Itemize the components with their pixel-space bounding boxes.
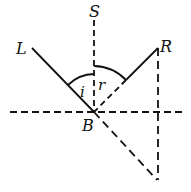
label-r: R [159, 37, 172, 56]
incident-extension [94, 112, 157, 180]
label-b: B [81, 116, 94, 135]
label-l: L [15, 39, 27, 58]
reflected-ray-solid [126, 48, 158, 80]
label-s: S [89, 2, 100, 21]
incident-ray-l [32, 48, 94, 112]
label-angle-r: r [98, 76, 106, 94]
reflection-diagram: S L R B i r [0, 0, 191, 192]
label-angle-i: i [80, 83, 85, 101]
